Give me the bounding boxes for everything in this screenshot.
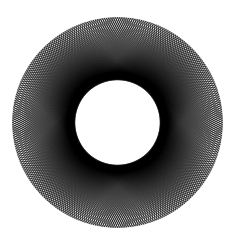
- string-art-figure: [0, 0, 238, 244]
- chord-diagram-svg: [0, 0, 238, 244]
